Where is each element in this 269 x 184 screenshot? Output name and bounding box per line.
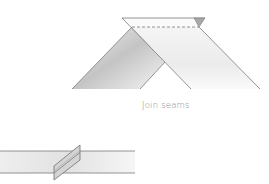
top-band: [122, 18, 205, 27]
join-seams-diagram: [0, 0, 269, 184]
bottom-strip-diagram: [0, 145, 135, 180]
caption-join-seams: Join seams: [142, 100, 202, 110]
top-join-diagram: [72, 18, 260, 89]
